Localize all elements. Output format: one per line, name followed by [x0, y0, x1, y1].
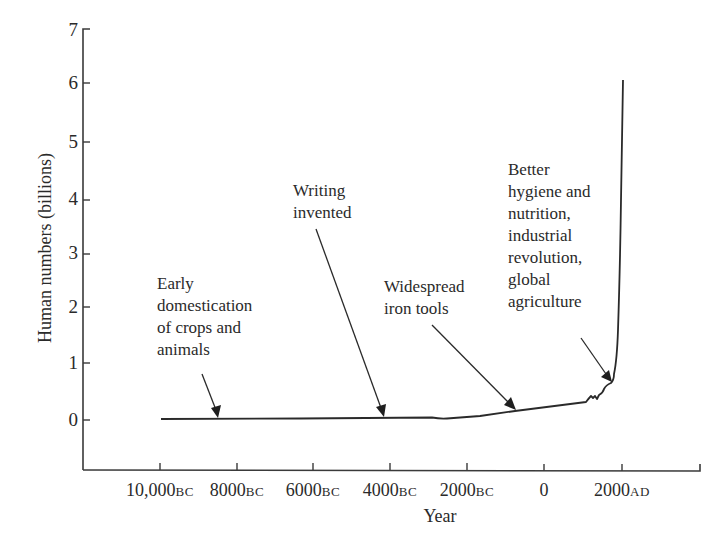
y-tick-label: 1 [58, 353, 78, 373]
y-tick-label: 2 [58, 297, 78, 317]
y-tick-label: 7 [58, 20, 78, 40]
y-axis-title: Human numbers (billions) [35, 153, 55, 343]
x-tick-label: 0 [540, 480, 549, 502]
x-tick-label: 4000BC [363, 480, 417, 502]
y-axis [83, 29, 90, 470]
x-tick-label: 6000BC [286, 480, 340, 502]
annotation-iron-tools: Widespread iron tools [384, 276, 465, 320]
arrow-writing [316, 229, 386, 417]
x-tick-label: 8000BC [210, 480, 264, 502]
x-tick-label: 2000AD [594, 480, 650, 502]
population-chart: 7 6 5 4 3 2 1 0 10,000BC 8000BC 6000BC 4… [0, 0, 718, 545]
annotation-writing: Writing invented [293, 180, 352, 224]
chart-canvas [0, 0, 718, 545]
y-tick-label: 4 [58, 189, 78, 209]
y-tick-label: 5 [58, 132, 78, 152]
y-ticks [83, 83, 90, 420]
y-tick-label: 3 [58, 243, 78, 263]
arrow-industrial [581, 338, 612, 382]
arrow-domestication [202, 374, 221, 418]
x-tick-label: 2000BC [440, 480, 494, 502]
x-tick-label: 10,000BC [126, 480, 194, 502]
annotation-domestication: Early domestication of crops and animals [157, 273, 252, 361]
x-axis [83, 464, 700, 471]
y-tick-label: 0 [58, 410, 78, 430]
arrow-iron-tools [432, 325, 516, 410]
x-axis-title: Year [423, 506, 456, 526]
y-tick-label: 6 [58, 73, 78, 93]
annotation-industrial: Better hygiene and nutrition, industrial… [508, 159, 591, 313]
